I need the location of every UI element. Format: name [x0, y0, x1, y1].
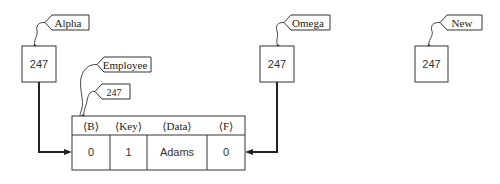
omega-pointer-value: 247 [268, 58, 286, 70]
address-tag-string [84, 91, 95, 116]
alpha-pointer-value: 247 [30, 58, 48, 70]
new-tag-string [429, 22, 440, 46]
value-back-link: 0 [88, 146, 94, 158]
alpha-tag-string [35, 22, 45, 46]
employee-tag-label: Employee [103, 59, 148, 71]
header-key: ⟨Key⟩ [115, 120, 142, 132]
new-tag-label: New [452, 17, 473, 29]
header-back-link: ⟨B⟩ [83, 120, 99, 132]
value-forward-link: 0 [223, 146, 229, 158]
header-data: ⟨Data⟩ [162, 120, 191, 132]
omega-pointer: Omega 247 [245, 15, 330, 155]
value-data: Adams [160, 146, 195, 158]
record-tags: Employee 247 [80, 57, 151, 117]
employee-tag-string [80, 64, 97, 116]
header-forward-link: ⟨F⟩ [219, 120, 234, 132]
new-pointer: New 247 [415, 15, 482, 82]
new-pointer-value: 247 [422, 58, 440, 70]
alpha-arrow-line [39, 82, 66, 152]
employee-record: ⟨B⟩ ⟨Key⟩ ⟨Data⟩ ⟨F⟩ 0 1 Adams 0 [72, 116, 245, 170]
omega-arrow-line [251, 82, 277, 152]
linked-record-diagram: Alpha 247 Employee 247 ⟨B⟩ ⟨Key⟩ ⟨Data⟩ … [0, 0, 500, 184]
omega-tag-string [276, 22, 284, 46]
alpha-tag-label: Alpha [55, 17, 82, 29]
value-key: 1 [125, 146, 131, 158]
alpha-arrowhead-icon [64, 149, 72, 155]
omega-arrowhead-icon [245, 149, 253, 155]
omega-tag-label: Omega [292, 17, 324, 29]
address-tag-label: 247 [107, 87, 122, 98]
